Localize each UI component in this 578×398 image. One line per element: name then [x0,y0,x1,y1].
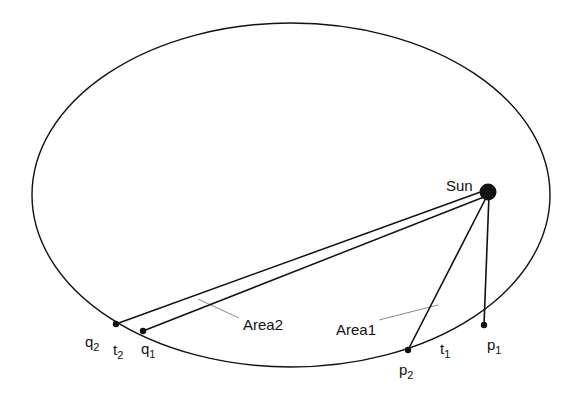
orbit-point-q1 [140,328,146,334]
radius-line-sun-to-q2 [116,190,486,324]
orbit-point-p1 [481,322,487,328]
point-label-q2: q2 [85,334,99,349]
orbit-point-p2 [405,347,411,353]
point-label-p1-subscript: 1 [495,344,501,356]
point-label-p2-subscript: 2 [407,369,413,381]
area-label-area1: Area1 [336,322,376,337]
point-label-q1: q1 [141,341,155,356]
arc-label-t2-subscript: 2 [117,349,123,361]
radius-line-sun-to-p2 [408,194,488,350]
arc-label-t1-subscript: 1 [444,348,450,360]
radius-line-sun-to-q1 [143,195,489,331]
point-label-p2: p2 [399,362,413,377]
figure-canvas: Sun p1 p2 q1 q2 t1 t2 Area1 Area2 [0,0,578,398]
point-label-q2-subscript: 2 [93,341,99,353]
sun-dot-icon [480,184,497,201]
orbit-point-q2 [113,321,119,327]
radius-line-sun-to-p1 [484,195,489,325]
point-label-q1-subscript: 1 [149,348,155,360]
point-label-p1: p1 [487,337,501,352]
area-label-area2: Area2 [243,317,283,332]
arc-label-t2: t2 [113,342,123,357]
sun-label: Sun [446,178,473,193]
arc-label-t1: t1 [440,341,450,356]
